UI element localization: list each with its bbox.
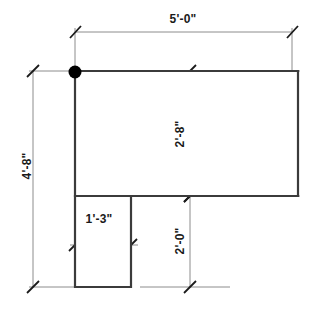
drawing-canvas	[0, 0, 320, 309]
floor-plan-drawing: 5'-0" 4'-8" 2'-8" 2'-0" 1'-3"	[0, 0, 320, 309]
lower-leg-outline	[75, 196, 131, 287]
dim-label-overall-height: 4'-8"	[21, 153, 33, 180]
plan-geometry	[75, 71, 298, 287]
origin-point-marker	[69, 66, 82, 79]
dim-label-upper-leg-depth: 2'-8"	[174, 121, 186, 148]
dim-label-notch-width: 1'-3"	[86, 213, 113, 225]
dim-label-overall-width: 5'-0"	[170, 13, 197, 25]
dim-label-lower-leg-depth: 2'-0"	[174, 228, 186, 255]
